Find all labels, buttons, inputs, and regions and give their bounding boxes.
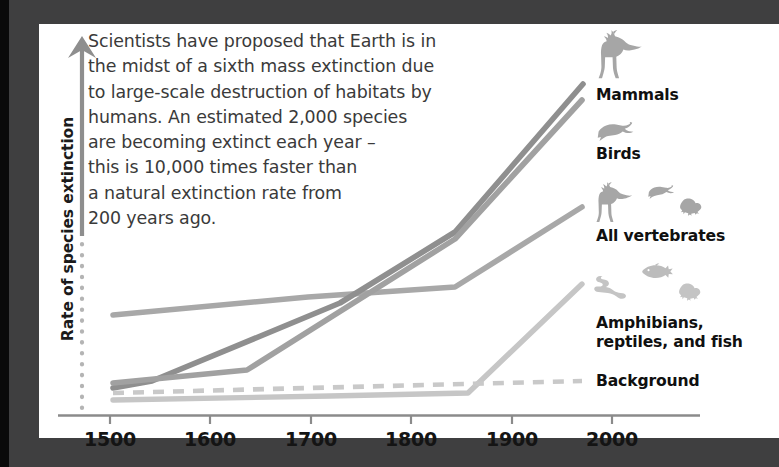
series-line-background bbox=[113, 381, 582, 393]
legend-label-background: Background bbox=[596, 372, 699, 391]
annotation-line: Scientists have proposed that Earth is i… bbox=[88, 29, 508, 54]
fish-icon bbox=[642, 264, 673, 278]
extinction-rate-figure: Rate of species extinction Scientists ha… bbox=[0, 0, 779, 467]
snake-icon bbox=[594, 276, 626, 299]
frog-icon bbox=[680, 199, 701, 216]
amphibians-reptiles-fish-icons bbox=[594, 264, 700, 301]
x-tick-label-1600: 1600 bbox=[170, 428, 250, 450]
legend-item-background: Background bbox=[596, 372, 699, 391]
legend-label-all-vertebrates: All vertebrates bbox=[596, 227, 725, 246]
annotation-line: 200 years ago. bbox=[88, 206, 508, 231]
annotation-line: this is 10,000 times faster than bbox=[88, 155, 508, 180]
x-tick-label-1900: 1900 bbox=[472, 428, 552, 450]
x-axis bbox=[58, 415, 700, 424]
bird-icon bbox=[598, 122, 634, 141]
annotation-line: humans. An estimated 2,000 species bbox=[88, 105, 508, 130]
legend-item-all-vertebrates: All vertebrates bbox=[596, 227, 725, 246]
annotation-line: are becoming extinct each year – bbox=[88, 130, 508, 155]
deer-icon bbox=[597, 182, 633, 222]
annotation-line: the midst of a sixth mass extinction due bbox=[88, 54, 508, 79]
x-tick-label-1500: 1500 bbox=[70, 428, 150, 450]
legend-label-amphibians-line1: Amphibians, bbox=[596, 314, 743, 333]
deer-icon bbox=[599, 30, 642, 78]
annotation-line: to large-scale destruction of habitats b… bbox=[88, 80, 508, 105]
legend-item-birds: Birds bbox=[596, 145, 641, 164]
all-vertebrates-icons bbox=[597, 182, 702, 222]
frog-icon bbox=[679, 284, 700, 301]
bird-icon bbox=[648, 185, 674, 199]
legend-item-amphibians-reptiles-fish: Amphibians, reptiles, and fish bbox=[596, 314, 743, 351]
legend-label-amphibians-line2: reptiles, and fish bbox=[596, 333, 743, 352]
x-tick-label-1700: 1700 bbox=[271, 428, 351, 450]
annotation-text: Scientists have proposed that Earth is i… bbox=[88, 29, 508, 231]
x-tick-label-1800: 1800 bbox=[371, 428, 451, 450]
x-tick-label-2000: 2000 bbox=[572, 428, 652, 450]
annotation-line: a natural extinction rate from bbox=[88, 181, 508, 206]
legend-label-birds: Birds bbox=[596, 145, 641, 164]
legend-label-mammals: Mammals bbox=[596, 86, 679, 105]
y-axis-label: Rate of species extinction bbox=[59, 114, 77, 344]
legend-item-mammals: Mammals bbox=[596, 86, 679, 105]
